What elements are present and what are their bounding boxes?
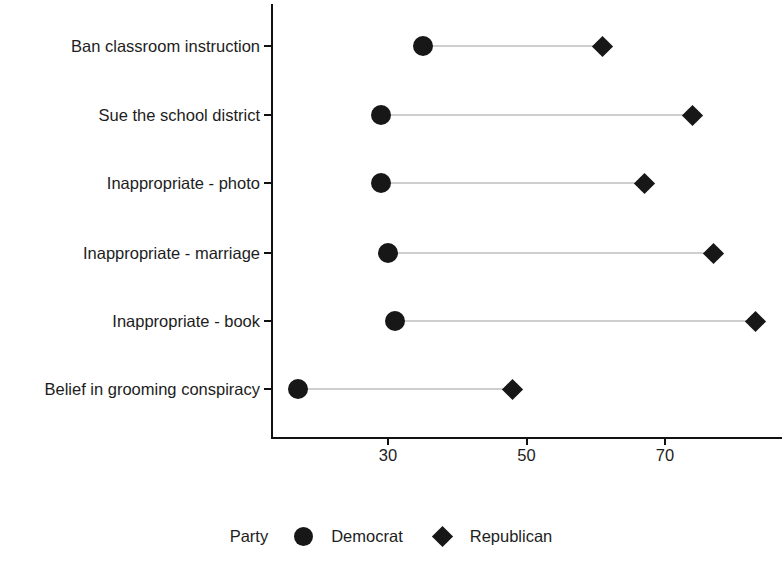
connector-line [381,182,644,184]
legend-entry-republican[interactable]: Republican [433,527,553,546]
dumbbell-chart: Ban classroom instructionSue the school … [0,0,782,564]
legend-label: Democrat [331,528,403,545]
republican-marker [682,104,703,125]
democrat-marker [371,105,391,125]
chart-legend: Party DemocratRepublican [0,527,782,546]
circle-marker-icon [294,527,313,546]
y-axis-tick-label: Ban classroom instruction [71,38,260,55]
democrat-marker [413,36,433,56]
republican-marker [744,310,765,331]
connector-line [388,252,713,254]
republican-marker [502,378,523,399]
republican-marker [634,172,655,193]
y-axis-tick [264,252,272,254]
y-axis-tick-label: Belief in grooming conspiracy [44,381,260,398]
diamond-marker-icon [432,526,453,547]
x-axis-tick-label: 30 [379,447,397,464]
y-axis-tick [264,45,272,47]
legend-entry-democrat[interactable]: Democrat [294,527,403,546]
x-axis-tick-label: 50 [517,447,535,464]
y-axis-tick [264,114,272,116]
y-axis-tick-label: Inappropriate - photo [107,175,260,192]
y-axis-spine [271,4,273,439]
y-axis-tick-label: Inappropriate - marriage [83,245,260,262]
legend-title: Party [230,528,269,545]
connector-line [298,388,513,390]
x-axis-tick-label: 70 [656,447,674,464]
x-axis-tick [387,438,389,445]
plot-area: Ban classroom instructionSue the school … [0,0,782,450]
x-axis-tick [664,438,666,445]
democrat-marker [288,379,308,399]
democrat-marker [385,311,405,331]
y-axis-tick-label: Inappropriate - book [112,313,260,330]
connector-line [423,45,603,47]
x-axis-tick [526,438,528,445]
y-axis-tick-label: Sue the school district [99,107,260,124]
y-axis-tick [264,320,272,322]
y-axis-tick [264,182,272,184]
connector-line [395,320,755,322]
connector-line [381,114,693,116]
republican-marker [592,35,613,56]
legend-label: Republican [470,528,553,545]
y-axis-tick [264,388,272,390]
democrat-marker [378,243,398,263]
republican-marker [703,242,724,263]
democrat-marker [371,173,391,193]
